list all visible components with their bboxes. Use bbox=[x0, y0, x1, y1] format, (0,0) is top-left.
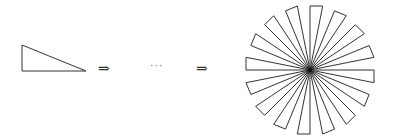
center-point bbox=[308, 68, 312, 72]
implies-arrow-2: ⇒ bbox=[196, 60, 208, 76]
ellipsis: ··· bbox=[150, 60, 164, 73]
pinwheel-triangles bbox=[246, 6, 374, 134]
source-triangle bbox=[22, 45, 86, 71]
implies-arrow-1: ⇒ bbox=[98, 60, 110, 76]
